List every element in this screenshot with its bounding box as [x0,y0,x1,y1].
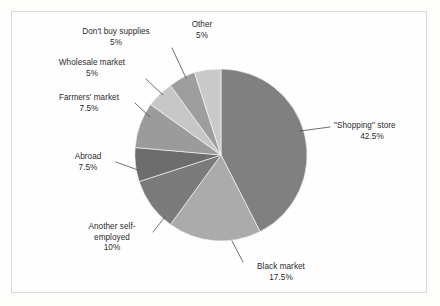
pie-label-farmers-market: Farmers' market 7.5% [44,93,134,114]
pie-label-wholesale-market-name: Wholesale market [40,58,144,69]
pie-label-dont-buy-supplies-name: Don't buy supplies [62,27,170,38]
pie-label-another-self-employed: Another self- employed 10% [70,222,154,254]
pie-label-shopping-store: "Shopping" store 42.5% [334,121,410,142]
pie-label-other: Other 5% [174,20,230,41]
leader-line-black-market [232,241,243,262]
pie-label-other-name: Other [174,20,230,31]
pie-label-dont-buy-supplies: Don't buy supplies 5% [62,27,170,48]
pie-label-dont-buy-supplies-value: 5% [62,38,170,49]
pie-label-abroad-value: 7.5% [60,163,116,174]
chart-area: "Shopping" store 42.5% Black market 17.5… [0,0,440,306]
pie-label-black-market-name: Black market [244,262,318,273]
pie-label-shopping-store-value: 42.5% [334,132,410,143]
leader-line-shopping-store [300,127,330,131]
pie-label-abroad-name: Abroad [60,152,116,163]
pie-chart-page: "Shopping" store 42.5% Black market 17.5… [0,0,440,306]
pie-label-black-market-value: 17.5% [244,273,318,284]
pie-label-abroad: Abroad 7.5% [60,152,116,173]
pie-label-other-value: 5% [174,31,230,42]
pie-label-another-self-employed-name-1: Another self- [70,222,154,233]
pie-label-wholesale-market: Wholesale market 5% [40,58,144,79]
pie-label-farmers-market-name: Farmers' market [44,93,134,104]
pie-label-another-self-employed-name-2: employed [70,233,154,244]
leader-line-dont-buy-supplies [172,48,186,78]
leader-line-wholesale-market [146,79,163,95]
pie-label-wholesale-market-value: 5% [40,69,144,80]
pie-label-shopping-store-name: "Shopping" store [334,121,410,132]
leader-line-another-self-employed [153,217,165,232]
leader-line-abroad [116,162,138,170]
pie-label-another-self-employed-value: 10% [70,243,154,254]
pie-label-farmers-market-value: 7.5% [44,104,134,115]
pie-label-black-market: Black market 17.5% [244,262,318,283]
